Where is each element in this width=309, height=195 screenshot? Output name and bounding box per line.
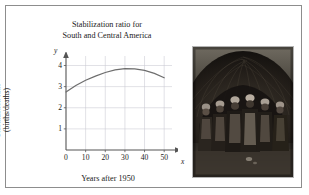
y-axis-label-line-2: (births/deaths) bbox=[3, 58, 12, 162]
x-axis-label: Years after 1950 bbox=[48, 174, 168, 183]
chart-title: Stabilization ratio for South and Centra… bbox=[32, 20, 182, 41]
y-axis-variable-label: y bbox=[54, 46, 57, 55]
photograph-image bbox=[193, 47, 293, 177]
photograph bbox=[192, 46, 294, 178]
chart-title-line-2: South and Central America bbox=[32, 31, 182, 42]
x-tick-label: 50 bbox=[157, 153, 171, 162]
y-axis-label: Stabilization ratio (births/deaths) bbox=[0, 58, 11, 162]
axes bbox=[63, 52, 178, 153]
chart-panel: Stabilization ratio for South and Centra… bbox=[14, 14, 189, 192]
figure-frame: Stabilization ratio for South and Centra… bbox=[5, 5, 302, 188]
axis-ticks bbox=[64, 66, 164, 153]
y-tick-label: 3 bbox=[52, 82, 62, 91]
plot-svg bbox=[58, 52, 178, 160]
y-tick-label: 2 bbox=[52, 103, 62, 112]
x-tick-label: 0 bbox=[59, 153, 73, 162]
y-tick-label: 4 bbox=[52, 61, 62, 70]
plot-area bbox=[58, 52, 178, 160]
x-tick-label: 20 bbox=[98, 153, 112, 162]
figure-page: Stabilization ratio for South and Centra… bbox=[0, 0, 309, 195]
x-tick-label: 10 bbox=[79, 153, 93, 162]
x-axis-variable-label: x bbox=[181, 157, 184, 166]
x-tick-label: 40 bbox=[138, 153, 152, 162]
y-tick-label: 1 bbox=[52, 124, 62, 133]
chart-title-line-1: Stabilization ratio for bbox=[32, 20, 182, 31]
data-curve bbox=[66, 69, 164, 92]
gridlines bbox=[66, 56, 172, 150]
x-tick-label: 30 bbox=[118, 153, 132, 162]
